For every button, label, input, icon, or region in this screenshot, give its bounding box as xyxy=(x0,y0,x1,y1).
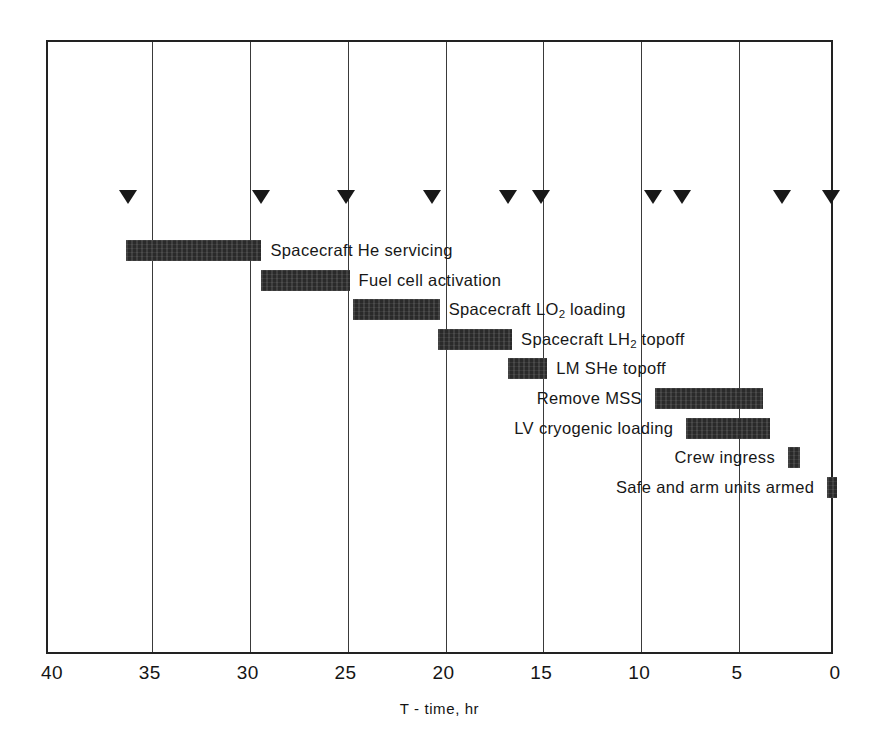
milestone-marker-7 xyxy=(644,190,662,204)
milestone-marker-6 xyxy=(532,190,550,204)
milestone-marker-3 xyxy=(337,190,355,204)
task-label: Fuel cell activation xyxy=(359,270,502,291)
task-row[interactable]: LV cryogenic loading xyxy=(48,418,831,440)
task-label: LV cryogenic loading xyxy=(514,418,673,439)
task-bar[interactable] xyxy=(655,388,763,409)
x-tick-label-5: 5 xyxy=(707,662,767,684)
task-row[interactable]: Spacecraft LO2 loading xyxy=(48,299,831,321)
milestone-marker-5 xyxy=(499,190,517,204)
x-tick-label-25: 25 xyxy=(316,662,376,684)
x-axis-title: T - time, hr xyxy=(320,700,560,717)
task-label: Spacecraft LO2 loading xyxy=(449,299,626,320)
milestone-marker-8 xyxy=(673,190,691,204)
gantt-chart: Spacecraft He servicingFuel cell activat… xyxy=(0,0,879,755)
x-tick-label-10: 10 xyxy=(609,662,669,684)
task-bar[interactable] xyxy=(686,418,770,439)
task-label: Safe and arm units armed xyxy=(616,477,814,498)
task-bar[interactable] xyxy=(827,477,837,498)
milestone-marker-2 xyxy=(252,190,270,204)
task-label: LM SHe topoff xyxy=(556,358,666,379)
x-tick-label-30: 30 xyxy=(218,662,278,684)
task-row[interactable]: Crew ingress xyxy=(48,447,831,469)
x-tick-label-0: 0 xyxy=(805,662,865,684)
task-bar[interactable] xyxy=(353,299,439,320)
task-row[interactable]: Remove MSS xyxy=(48,388,831,410)
task-row[interactable]: LM SHe topoff xyxy=(48,358,831,380)
x-tick-label-15: 15 xyxy=(511,662,571,684)
milestone-marker-9 xyxy=(773,190,791,204)
task-row[interactable]: Spacecraft He servicing xyxy=(48,240,831,262)
milestone-marker-4 xyxy=(423,190,441,204)
task-row[interactable]: Fuel cell activation xyxy=(48,270,831,292)
task-bar[interactable] xyxy=(261,270,349,291)
task-label: Spacecraft LH2 topoff xyxy=(521,329,685,350)
x-tick-label-20: 20 xyxy=(414,662,474,684)
task-label: Spacecraft He servicing xyxy=(270,240,452,261)
x-tick-label-40: 40 xyxy=(22,662,82,684)
task-label: Remove MSS xyxy=(537,388,642,409)
task-label: Crew ingress xyxy=(675,447,775,468)
task-bar[interactable] xyxy=(508,358,547,379)
milestone-marker-1 xyxy=(119,190,137,204)
plot-area: Spacecraft He servicingFuel cell activat… xyxy=(46,40,833,654)
task-bar[interactable] xyxy=(438,329,512,350)
task-row[interactable]: Safe and arm units armed xyxy=(48,477,831,499)
x-tick-label-35: 35 xyxy=(120,662,180,684)
task-bar[interactable] xyxy=(788,447,800,468)
task-row[interactable]: Spacecraft LH2 topoff xyxy=(48,329,831,351)
task-bar[interactable] xyxy=(126,240,261,261)
milestone-marker-10 xyxy=(822,190,840,204)
